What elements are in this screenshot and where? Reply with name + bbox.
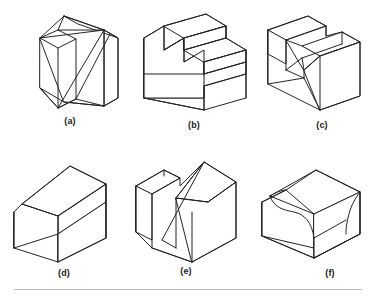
face-b-front <box>144 74 204 98</box>
figure-plate: (a) <box>0 0 377 301</box>
figure-c: (c) <box>262 8 370 114</box>
figure-f: (f) <box>256 156 372 268</box>
figure-e-label: (e) <box>156 266 216 276</box>
figure-c-label: (c) <box>292 120 352 130</box>
figure-c-drawing <box>262 8 370 114</box>
edge-b-bottom-front <box>144 98 204 110</box>
figure-d-label: (d) <box>34 268 94 278</box>
edge-e-bottom-front <box>152 248 192 262</box>
figure-e: (e) <box>132 152 244 270</box>
edge-c-slot-floor-near <box>286 58 302 70</box>
figure-a-drawing <box>14 6 126 114</box>
figure-d-drawing <box>8 156 124 268</box>
figure-f-drawing <box>256 156 372 268</box>
figure-e-drawing <box>132 152 244 270</box>
figure-f-label: (f) <box>300 268 360 278</box>
figure-a-label: (a) <box>40 116 100 126</box>
footer-rule <box>14 289 362 290</box>
figure-a: (a) <box>14 6 126 114</box>
figure-b-drawing <box>140 12 248 112</box>
figure-b-label: (b) <box>164 120 224 130</box>
edge-e-slot-bottom <box>162 240 176 248</box>
edge-c-slot-bottom-left <box>286 70 304 78</box>
face-e-front-left <box>136 186 152 240</box>
figure-b: (b) <box>140 12 248 112</box>
edge-c-bottom-left <box>268 78 304 84</box>
figure-d: (d) <box>8 156 124 268</box>
edge-a-base-left <box>40 88 58 108</box>
